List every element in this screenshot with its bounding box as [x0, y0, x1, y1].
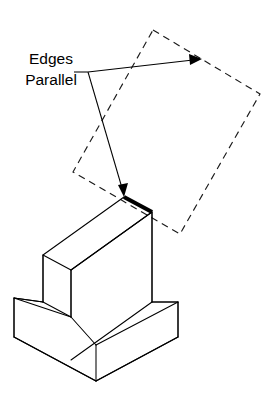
arrow-head-lower [118, 183, 128, 197]
base-front-left-face [14, 337, 96, 381]
isometric-t-block [14, 197, 178, 381]
base-top-right-diagonal [96, 302, 178, 345]
isometric-figure-canvas: Edges Parallel [0, 0, 275, 400]
upright-front-face [71, 212, 152, 360]
leader-to-dashed-edge [88, 60, 193, 72]
figure-root: Edges Parallel [0, 0, 275, 400]
dashed-construction-square [73, 30, 260, 234]
callout-line-2: Parallel [25, 71, 77, 88]
upright-left-face [43, 255, 71, 317]
base-top-front-right-diagonal [71, 317, 96, 345]
highlighted-top-back-edge [124, 197, 152, 212]
base-front-right-face [96, 337, 178, 381]
callout-line-1: Edges [29, 50, 73, 67]
leader-to-solid-edge [88, 72, 122, 188]
